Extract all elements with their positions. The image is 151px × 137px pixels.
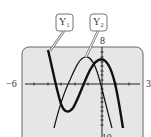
xmax-label: 3: [146, 79, 151, 89]
calculator-screen: [0, 0, 151, 137]
callout-label-y1: Y₁: [59, 17, 70, 27]
ymax-label: 8: [100, 36, 105, 46]
xmin-label: −6: [6, 79, 17, 89]
callout-label-y2: Y₂: [93, 17, 104, 27]
ymin-label: −10: [96, 133, 112, 137]
screen-background: [22, 47, 143, 137]
